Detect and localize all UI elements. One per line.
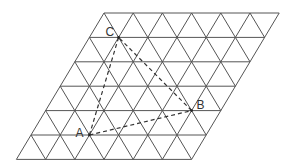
point-label-b: B (197, 98, 205, 112)
triangle-grid-diagram: ABC (0, 0, 293, 168)
point-label-c: C (106, 25, 115, 39)
grid-lines (16, 13, 279, 159)
point-label-a: A (75, 126, 83, 140)
